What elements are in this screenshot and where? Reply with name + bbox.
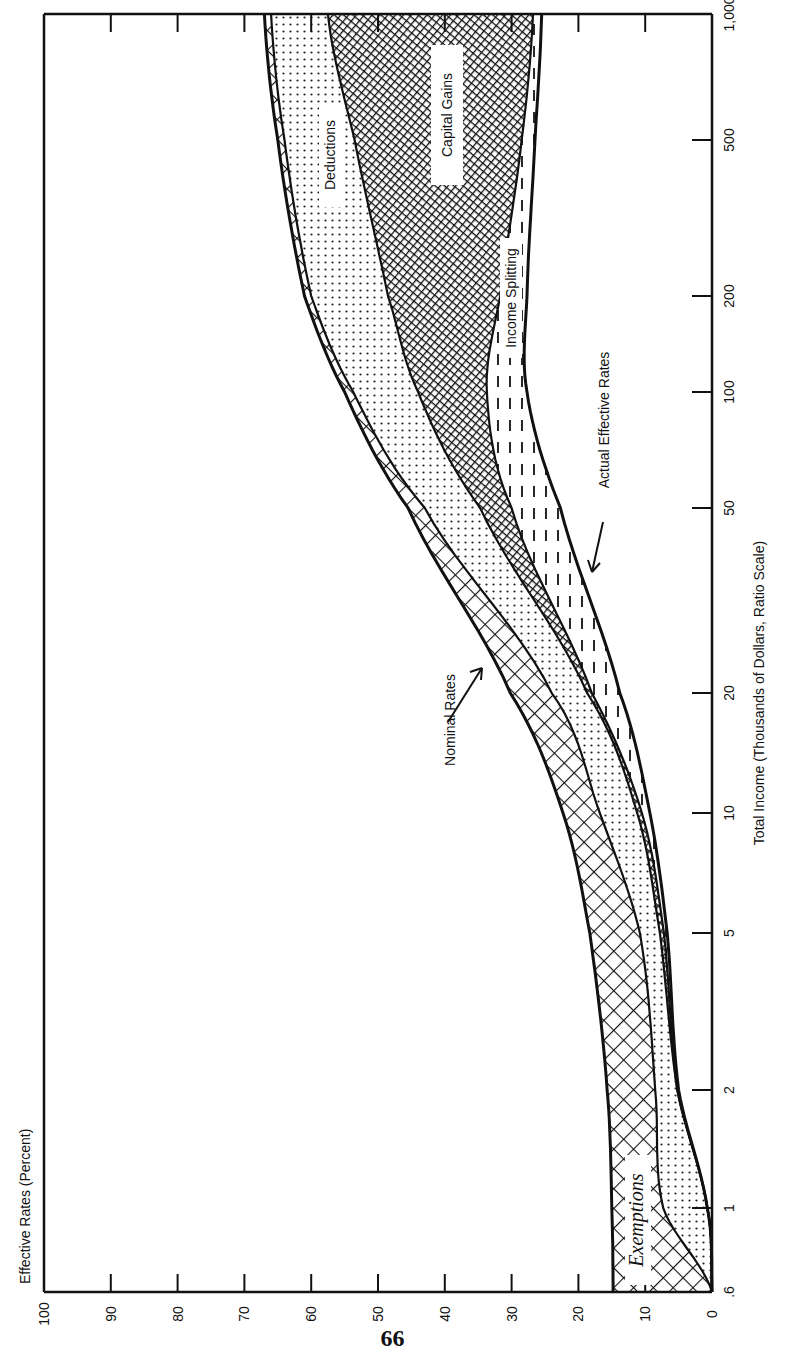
y-tick-label: 70 <box>236 1306 252 1322</box>
y-tick-label: 20 <box>570 1306 586 1322</box>
x-tick-label: 50 <box>721 500 737 516</box>
label-exemptions: Exemptions <box>625 1155 651 1285</box>
x-axis-title: Total Income (Thousands of Dollars, Rati… <box>751 541 767 845</box>
label-deductions: Deductions <box>319 103 341 207</box>
x-tick-label: 500 <box>721 128 737 152</box>
y-tick-label: 90 <box>103 1306 119 1322</box>
label-deductions-text: Deductions <box>322 120 338 190</box>
annotation-actual-effective-rates: Actual Effective Rates <box>596 352 612 489</box>
y-tick-label: 80 <box>170 1306 186 1322</box>
label-income-splitting: Income Splitting <box>500 238 522 358</box>
effective-rates-chart: 0102030405060708090100Effective Rates (P… <box>0 0 785 1369</box>
y-tick-label: 0 <box>704 1310 720 1318</box>
page-number: 66 <box>0 1325 785 1352</box>
x-tick-label: 1,000 <box>721 0 737 32</box>
y-tick-label: 40 <box>437 1306 453 1322</box>
label-income-splitting-text: Income Splitting <box>503 248 519 348</box>
x-axis-total-income: .61251020501002005001,000Total Income (T… <box>692 0 767 1298</box>
label-capital-gains-text: Capital Gains <box>439 73 455 157</box>
x-tick-label: .6 <box>721 1286 737 1298</box>
y-tick-label: 10 <box>637 1306 653 1322</box>
y-tick-label: 60 <box>303 1306 319 1322</box>
x-tick-label: 20 <box>721 685 737 701</box>
x-tick-label: 1 <box>721 1204 737 1212</box>
y-tick-label: 30 <box>504 1306 520 1322</box>
label-capital-gains: Capital Gains <box>431 45 463 185</box>
y-tick-label: 100 <box>36 1302 52 1326</box>
x-tick-label: 100 <box>721 380 737 404</box>
x-tick-label: 5 <box>721 929 737 937</box>
y-axis-title: Effective Rates (Percent) <box>17 1129 33 1284</box>
label-exemptions-text: Exemptions <box>625 1173 648 1268</box>
x-tick-label: 10 <box>721 805 737 821</box>
y-tick-label: 50 <box>370 1306 386 1322</box>
x-tick-label: 2 <box>721 1086 737 1094</box>
x-tick-label: 200 <box>721 284 737 308</box>
